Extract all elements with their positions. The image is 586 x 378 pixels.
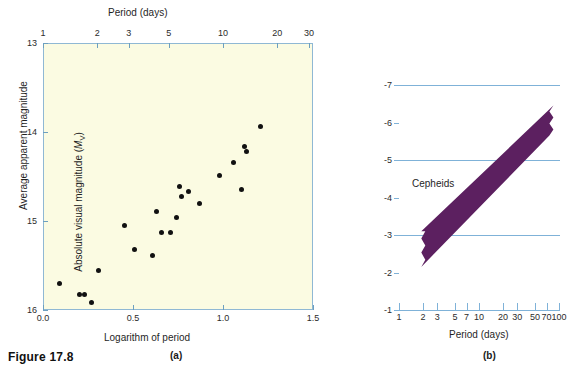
panel-a-top-tick [277, 43, 278, 48]
panel-b-bottom-tick [517, 303, 518, 310]
panel-b-bottom-tick [399, 303, 400, 310]
scatter-point [239, 187, 244, 192]
panel-b-left-tick [394, 85, 399, 86]
panel-b-y-title-close: ) [73, 132, 84, 135]
scatter-point [122, 223, 127, 228]
panel-b-left-tick-label: -2 [374, 269, 392, 278]
panel-a-y-axis-title: Average apparent magnitude [18, 61, 29, 231]
panel-a-bottom-tick-label: 1.5 [303, 314, 323, 323]
panel-a-top-tick [169, 43, 170, 48]
panel-b-bottom-tick [467, 303, 468, 310]
panel-a-top-tick [309, 43, 310, 48]
panel-a-letter: (a) [170, 350, 182, 361]
scatter-point [197, 201, 202, 206]
panel-a-top-tick-label: 10 [218, 29, 228, 38]
panel-b-left-tick-label: -5 [374, 156, 392, 165]
panel-b-left-tick [394, 273, 399, 274]
panel-b-y-title-text: Absolute visual magnitude ( [73, 149, 84, 272]
scatter-point [231, 160, 236, 165]
panel-b-bottom-tick [437, 303, 438, 310]
panel-a-top-tick-label: 20 [272, 29, 282, 38]
panel-a-top-tick-label: 2 [92, 29, 102, 38]
panel-a-left-tick [43, 43, 48, 44]
scatter-point [217, 173, 222, 178]
panel-a-bottom-tick [223, 305, 224, 310]
panel-b-left-tick [394, 235, 399, 236]
panel-a-top-tick-label: 30 [304, 29, 314, 38]
panel-a-top-tick [129, 43, 130, 48]
scatter-point [174, 215, 179, 220]
panel-a-left-tick-label: 13 [22, 39, 37, 48]
panel-a-bottom-tick-label: 1.0 [213, 314, 233, 323]
panel-a-top-axis-title: Period (days) [108, 8, 167, 18]
panel-a-top-tick-label: 3 [124, 29, 134, 38]
panel-a-top-tick [97, 43, 98, 48]
panel-a-top-tick-label: 1 [38, 29, 48, 38]
panel-b-left-tick-label: -6 [374, 119, 392, 128]
panel-a-left-tick [43, 132, 48, 133]
scatter-point [177, 184, 182, 189]
panel-a-bottom-tick-label: 0.0 [33, 314, 53, 323]
figure-caption: Figure 17.8 [8, 350, 74, 364]
panel-a-bottom-tick [133, 305, 134, 310]
panel-a-x-axis-title: Logarithm of period [104, 333, 190, 343]
panel-a-bottom-tick [313, 305, 314, 310]
panel-b-left-tick-label: -4 [374, 194, 392, 203]
panel-b-bottom-tick-label: 30 [508, 313, 526, 322]
panel-a-top-tick-label: 5 [164, 29, 174, 38]
panel-b-bottom-tick-label: 1 [390, 313, 408, 322]
panel-b-baseline [399, 310, 560, 311]
panel-b-bottom-tick [503, 303, 504, 310]
scatter-point [258, 124, 263, 129]
panel-b-bottom-tick [423, 303, 424, 310]
panel-b-bottom-tick [535, 303, 536, 310]
panel-b-y-title-symbol: M [73, 141, 84, 149]
scatter-point [242, 144, 247, 149]
panel-a-left-tick-label: 16 [22, 306, 37, 315]
panel-a-top-tick [223, 43, 224, 48]
panel-a-left-tick [43, 221, 48, 222]
cepheids-annotation: Cepheids [412, 178, 454, 189]
scatter-point [57, 281, 62, 286]
scatter-point [159, 230, 164, 235]
panel-b-left-tick [394, 310, 399, 311]
figure-17-8: Period (days) 1235102030 0.00.51.01.5 13… [0, 0, 586, 378]
panel-b-bottom-tick-label: 3 [428, 313, 446, 322]
scatter-point [89, 300, 94, 305]
scatter-point [186, 189, 191, 194]
panel-a-left-tick [43, 310, 48, 311]
panel-b-letter: (b) [483, 350, 496, 361]
panel-b-left-tick [394, 160, 399, 161]
panel-b-bottom-tick [547, 303, 548, 310]
panel-b-x-axis-title: Period (days) [449, 330, 508, 340]
scatter-point [179, 194, 184, 199]
panel-b-bottom-tick-label: 100 [550, 313, 568, 322]
scatter-point [96, 268, 101, 273]
panel-a-bottom-tick-label: 0.5 [123, 314, 143, 323]
scatter-point [168, 230, 173, 235]
panel-b-left-tick [394, 123, 399, 124]
scatter-point [154, 209, 159, 214]
panel-b-bottom-tick [479, 303, 480, 310]
panel-b-y-axis-title: Absolute visual magnitude (MV) [73, 102, 87, 302]
scatter-point [132, 247, 137, 252]
scatter-point [244, 149, 249, 154]
panel-b-bottom-tick-label: 10 [470, 313, 488, 322]
panel-b-left-tick [394, 198, 399, 199]
scatter-point [150, 253, 155, 258]
panel-b-left-tick-label: -7 [374, 81, 392, 90]
panel-b-bottom-tick [455, 303, 456, 310]
panel-b-y-title-subscript: V [78, 136, 87, 141]
panel-b-bottom-tick [559, 303, 560, 310]
panel-b-left-tick-label: -3 [374, 231, 392, 240]
